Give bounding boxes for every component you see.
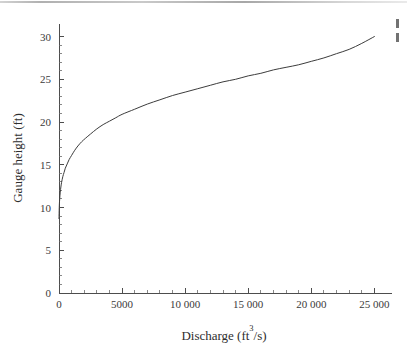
x-tick-label: 10 000	[170, 298, 201, 310]
y-tick-label: 25	[40, 73, 52, 85]
y-tick-label: 0	[46, 287, 52, 299]
y-tick-label: 5	[46, 244, 52, 256]
y-tick-label: 15	[40, 159, 52, 171]
axes-layer	[59, 24, 392, 293]
x-tick-label: 0	[56, 298, 62, 310]
figure-container: 0500010 00015 00020 00025 00005101520253…	[0, 0, 407, 358]
x-tick-label: 20 000	[296, 298, 327, 310]
y-tick-label: 20	[40, 116, 52, 128]
x-tick-label: 25 000	[359, 298, 390, 310]
x-tick-label: 15 000	[233, 298, 264, 310]
tick-labels-layer: 0500010 00015 00020 00025 00005101520253…	[40, 31, 390, 310]
y-tick-label: 30	[40, 31, 52, 43]
y-tick-label: 10	[40, 202, 52, 214]
rating-curve-line	[59, 37, 374, 219]
y-axis-title: Gauge height (ft)	[10, 113, 25, 203]
x-axis-title: Discharge (ft3/s)	[181, 323, 266, 343]
rating-curve-chart: 0500010 00015 00020 00025 00005101520253…	[0, 0, 407, 358]
data-curve-layer	[59, 37, 374, 219]
x-tick-label: 5000	[111, 298, 134, 310]
